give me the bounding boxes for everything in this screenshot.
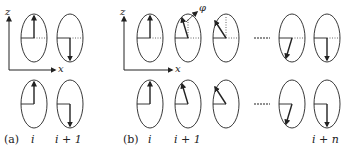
panel-a-spins: [21, 14, 83, 128]
panel-a-caption: (a): [4, 134, 19, 145]
panel-a-column-i1-label: i + 1: [55, 134, 82, 145]
phi-angle-label: φ: [199, 3, 206, 13]
panel-b-column-i1-label: i + 1: [174, 134, 201, 145]
panel-b-top-spins: [137, 12, 340, 62]
panel-a-x-axis-label: x: [58, 64, 64, 74]
diagram-canvas: [0, 0, 354, 148]
panel-b-z-axis-label: z: [120, 7, 125, 17]
panel-b-bottom-spins: [137, 80, 340, 128]
panel-a-column-i-label: i: [31, 134, 35, 145]
panel-b-column-in-label: i + n: [312, 134, 339, 145]
panel-b-x-axis-label: x: [175, 64, 181, 74]
panel-a-z-axis-label: z: [5, 7, 10, 17]
spin-chain-diagram: z x z x φ (a) i i + 1 (b) i i + 1 i + n: [0, 0, 354, 148]
panel-b-column-i-label: i: [148, 134, 152, 145]
panel-b-caption: (b): [123, 134, 139, 145]
